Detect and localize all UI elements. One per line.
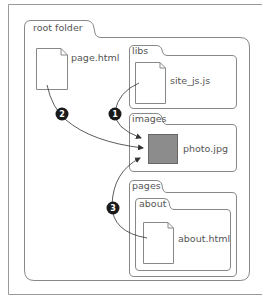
reference-arrows [47,83,147,238]
document-icon [136,63,166,104]
document-icon [144,223,174,264]
svg-text:2: 2 [59,110,65,119]
folder-label: images [132,113,167,124]
folder-label: libs [132,45,148,56]
svg-text:1: 1 [112,110,118,119]
badge-2: 2 [56,108,69,121]
folder-diagram: root folder page.html libs site_js.js im… [0,0,262,297]
photo-thumbnail [149,135,178,164]
file-label: about.html [178,233,230,244]
svg-text:3: 3 [110,204,116,213]
root-folder-label: root folder [33,22,83,33]
file-label: photo.jpg [183,143,228,154]
document-icon [37,49,68,90]
file-page-html: page.html [37,49,120,90]
folder-label: about [139,198,167,209]
badge-1: 1 [109,108,122,121]
folder-about: about about.html [136,198,231,271]
badge-3: 3 [107,202,120,215]
file-label: page.html [71,52,119,63]
file-label: site_js.js [170,75,210,86]
folder-images: images photo.jpg [130,113,237,172]
folder-pages: pages about about.html [130,180,237,277]
folder-label: pages [132,180,161,191]
folder-libs: libs site_js.js [130,45,237,109]
